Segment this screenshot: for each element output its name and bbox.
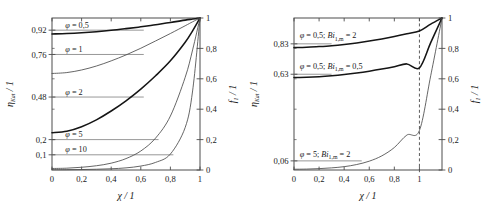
curve-annotation-1: φ = 1	[65, 45, 82, 54]
x-tick-label-1: 0,2	[76, 174, 87, 184]
x-tick-label-3: 0,6	[364, 174, 375, 184]
y-left-tick-label-4: 0,1	[36, 150, 47, 160]
curve-annotation-2: φ = 5; Bi1,m = 2	[300, 150, 351, 160]
x-tick-label-4: 0,8	[165, 174, 176, 184]
x-tick-label-1: 0,2	[314, 174, 325, 184]
y-left-tick-label-3: 0,2	[36, 135, 47, 145]
y-right-axis-title-group: f1 / 1	[227, 85, 239, 103]
y-right-tick-label-1: 0,2	[206, 135, 217, 145]
y-right-tick-label-0: 0	[448, 165, 452, 175]
y-right-tick-label-3: 0,6	[448, 74, 459, 84]
y-right-tick-label-4: 0,8	[448, 44, 459, 54]
x-axis-title: χ / 1	[116, 190, 134, 201]
curve-series-2	[52, 18, 200, 133]
x-tick-label-2: 0,4	[339, 174, 350, 184]
right-plot-svg: 00,20,40,60,81χ / 10,830,630,06ηKat / 10…	[246, 0, 491, 212]
y-right-tick-label-5: 1	[448, 13, 452, 23]
y-left-axis-title-group: ηKat / 1	[4, 81, 16, 107]
curve-annotation-1: φ = 0,5; Bi1,m = 0,5	[300, 62, 363, 72]
x-tick-label-0: 0	[292, 174, 296, 184]
chart-panel-right: 00,20,40,60,81χ / 10,830,630,06ηKat / 10…	[246, 0, 491, 212]
x-axis-title: χ / 1	[358, 190, 376, 201]
x-tick-label-0: 0	[50, 174, 54, 184]
y-right-tick-label-4: 0,8	[206, 44, 217, 54]
curve-annotation-0: φ = 0,5	[65, 21, 88, 30]
y-right-axis-title: f1 / 1	[469, 85, 481, 103]
curve-annotation-4: φ = 10	[65, 145, 86, 154]
y-left-tick-label-1: 0,63	[273, 69, 288, 79]
y-right-tick-label-1: 0,2	[448, 135, 459, 145]
y-left-axis-title: ηKat / 1	[248, 81, 260, 107]
chart-panel-left: 00,20,40,60,81χ / 10,920,760,480,20,1ηKa…	[0, 0, 245, 212]
x-tick-label-2: 0,4	[106, 174, 117, 184]
y-left-tick-label-2: 0,06	[273, 156, 289, 166]
y-right-tick-label-3: 0,6	[206, 74, 217, 84]
left-plot-svg: 00,20,40,60,81χ / 10,920,760,480,20,1ηKa…	[0, 0, 245, 212]
y-right-tick-label-2: 0,4	[206, 104, 217, 114]
y-left-tick-label-0: 0,92	[31, 25, 46, 35]
y-right-axis-title-group: f1 / 1	[469, 85, 481, 103]
x-tick-label-5: 1	[198, 174, 202, 184]
x-tick-label-4: 0,8	[389, 174, 400, 184]
curve-annotation-0: φ = 0,5; Bi1,m = 2	[300, 31, 357, 41]
curve-annotation-2: φ = 2	[65, 88, 82, 97]
y-right-axis-title: f1 / 1	[227, 85, 239, 103]
y-right-tick-label-0: 0	[206, 165, 210, 175]
y-left-axis-title: ηKat / 1	[4, 81, 16, 107]
y-right-tick-label-2: 0,4	[448, 104, 459, 114]
y-left-axis-title-group: ηKat / 1	[248, 81, 260, 107]
curve-annotation-3: φ = 5	[65, 130, 82, 139]
y-left-tick-label-2: 0,48	[31, 92, 46, 102]
y-left-tick-label-0: 0,83	[273, 39, 288, 49]
figure-root: 00,20,40,60,81χ / 10,920,760,480,20,1ηKa…	[0, 0, 491, 212]
y-right-tick-label-5: 1	[206, 13, 210, 23]
x-tick-label-3: 0,6	[135, 174, 146, 184]
x-tick-label-5: 1	[417, 174, 421, 184]
y-left-tick-label-1: 0,76	[31, 50, 47, 60]
